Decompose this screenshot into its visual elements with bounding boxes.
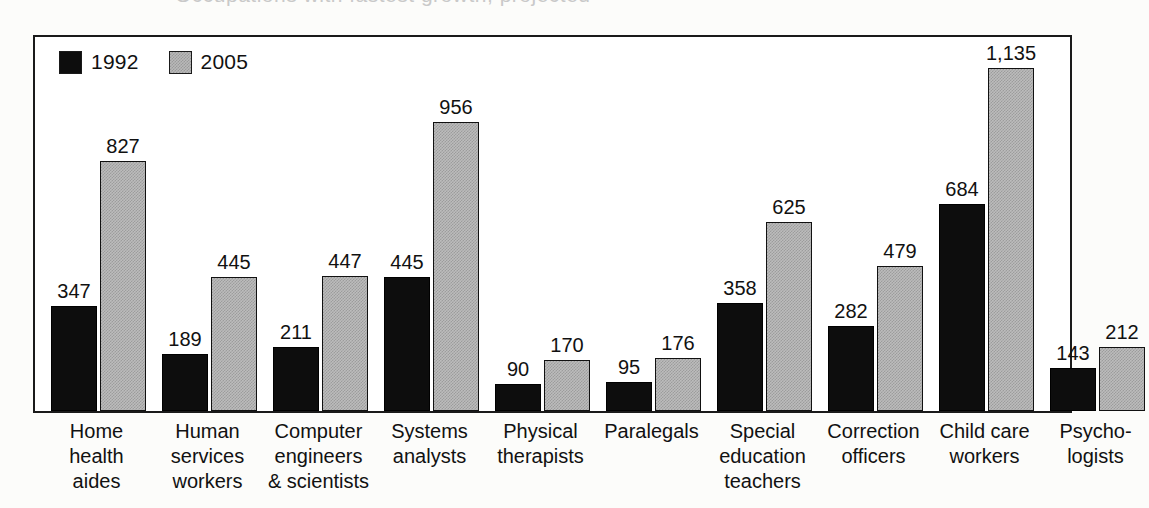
bar-y2005: 625 (766, 222, 812, 411)
x-axis-label: Computer engineers & scientists (261, 419, 376, 494)
bar-rect (322, 276, 368, 411)
bar-rect (51, 306, 97, 411)
bar-rect (384, 277, 430, 411)
bar-y1992: 358 (717, 303, 763, 411)
bar-value-label: 358 (723, 278, 756, 298)
chart-frame: 1992 2005 347827189445211447445956901709… (33, 35, 1072, 413)
bar-rect (766, 222, 812, 411)
bar-y1992: 347 (51, 306, 97, 411)
bar-rect (1050, 368, 1096, 411)
bar-y2005: 212 (1099, 347, 1145, 411)
bar-value-label: 347 (57, 281, 90, 301)
bar-y1992: 282 (828, 326, 874, 411)
x-axis-label: Human services workers (150, 419, 265, 494)
bar-value-label: 1,135 (986, 43, 1036, 63)
bar-group: 358625 (717, 222, 812, 411)
x-axis-label: Paralegals (594, 419, 709, 444)
plot-area: 3478271894452114474459569017095176358625… (35, 35, 1070, 411)
bar-rect (273, 347, 319, 411)
bar-value-label: 176 (661, 333, 694, 353)
bar-y1992: 445 (384, 277, 430, 411)
bar-group: 282479 (828, 266, 923, 411)
bar-rect (988, 68, 1034, 411)
x-axis-label: Psycho- logists (1038, 419, 1149, 469)
bar-y2005: 1,135 (988, 68, 1034, 411)
bar-y1992: 684 (939, 204, 985, 411)
bar-y1992: 211 (273, 347, 319, 411)
bar-group: 347827 (51, 161, 146, 411)
bar-value-label: 282 (834, 301, 867, 321)
bar-value-label: 479 (883, 241, 916, 261)
bar-rect (828, 326, 874, 411)
bar-y2005: 827 (100, 161, 146, 411)
bar-group: 189445 (162, 277, 257, 411)
bar-y2005: 479 (877, 266, 923, 411)
bar-y2005: 447 (322, 276, 368, 411)
cropped-title-text: Occupations with fastest growth, project… (175, 0, 591, 7)
bar-rect (1099, 347, 1145, 411)
bar-y1992: 90 (495, 384, 541, 411)
bar-value-label: 189 (168, 329, 201, 349)
bar-y1992: 95 (606, 382, 652, 411)
bar-rect (211, 277, 257, 411)
bar-rect (495, 384, 541, 411)
bar-y1992: 189 (162, 354, 208, 411)
x-axis-label: Home health aides (39, 419, 154, 494)
bar-y2005: 170 (544, 360, 590, 411)
bar-value-label: 212 (1105, 322, 1138, 342)
bar-value-label: 143 (1056, 343, 1089, 363)
x-axis-label: Special education teachers (705, 419, 820, 494)
bar-value-label: 827 (106, 136, 139, 156)
bar-rect (162, 354, 208, 411)
bar-rect (877, 266, 923, 411)
bar-group: 6841,135 (939, 68, 1034, 411)
bar-rect (606, 382, 652, 411)
bar-y2005: 176 (655, 358, 701, 411)
bar-y2005: 956 (433, 122, 479, 411)
bar-rect (544, 360, 590, 411)
x-axis-label: Correction officers (816, 419, 931, 469)
bar-value-label: 211 (280, 322, 312, 342)
bar-value-label: 90 (507, 359, 529, 379)
bar-value-label: 445 (217, 252, 250, 272)
bar-rect (100, 161, 146, 411)
bar-value-label: 447 (328, 251, 361, 271)
bar-group: 143212 (1050, 347, 1145, 411)
bar-y2005: 445 (211, 277, 257, 411)
bar-rect (939, 204, 985, 411)
bar-value-label: 684 (945, 179, 978, 199)
bar-group: 90170 (495, 360, 590, 411)
bar-value-label: 625 (772, 197, 805, 217)
bar-value-label: 445 (390, 252, 423, 272)
x-axis-label: Physical therapists (483, 419, 598, 469)
bar-group: 95176 (606, 358, 701, 411)
x-axis-label-row: Home health aidesHuman services workersC… (33, 419, 1072, 508)
bar-value-label: 170 (550, 335, 583, 355)
cropped-title-ghost: Occupations with fastest growth, project… (0, 0, 1100, 14)
bar-rect (655, 358, 701, 411)
x-axis-label: Systems analysts (372, 419, 487, 469)
bar-rect (717, 303, 763, 411)
bar-y1992: 143 (1050, 368, 1096, 411)
bar-rect (433, 122, 479, 411)
bar-value-label: 956 (439, 97, 472, 117)
x-axis-label: Child care workers (927, 419, 1042, 469)
bar-value-label: 95 (618, 357, 640, 377)
bar-group: 445956 (384, 122, 479, 411)
bar-group: 211447 (273, 276, 368, 411)
